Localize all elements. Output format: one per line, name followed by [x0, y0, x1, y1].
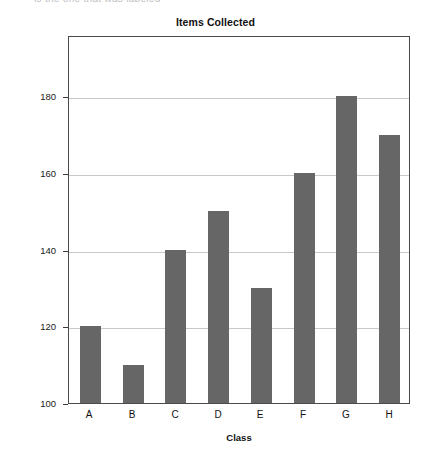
y-tick-label: 180	[28, 92, 56, 102]
bar-d	[208, 211, 229, 403]
bar-h	[379, 135, 400, 403]
bars-series	[69, 37, 409, 403]
bar-g	[336, 96, 357, 403]
chart-title: Items Collected	[0, 16, 431, 28]
x-tick-label-g: G	[329, 409, 363, 421]
y-tick-mark	[63, 404, 68, 405]
bar-e	[251, 288, 272, 403]
x-tick-label-a: A	[72, 409, 106, 421]
y-tick-mark	[63, 97, 68, 98]
bar-c	[165, 250, 186, 403]
x-tick-label-d: D	[201, 409, 235, 421]
y-tick-label: 120	[28, 322, 56, 332]
x-tick-label-c: C	[158, 409, 192, 421]
y-tick-label: 100	[28, 399, 56, 409]
y-tick-mark	[63, 251, 68, 252]
y-tick-mark	[63, 327, 68, 328]
x-tick-label-f: F	[286, 409, 320, 421]
y-tick-label: 160	[28, 169, 56, 179]
y-tick-label: 140	[28, 246, 56, 256]
y-tick-mark	[63, 174, 68, 175]
bar-f	[294, 173, 315, 403]
x-tick-label-h: H	[372, 409, 406, 421]
bar-chart-figure: Items Collected Number of Items 10012014…	[0, 0, 431, 466]
x-axis-title: Class	[68, 432, 410, 443]
x-tick-label-e: E	[243, 409, 277, 421]
x-tick-label-b: B	[115, 409, 149, 421]
plot-area	[68, 36, 410, 404]
bar-b	[123, 365, 144, 403]
bar-a	[80, 326, 101, 403]
